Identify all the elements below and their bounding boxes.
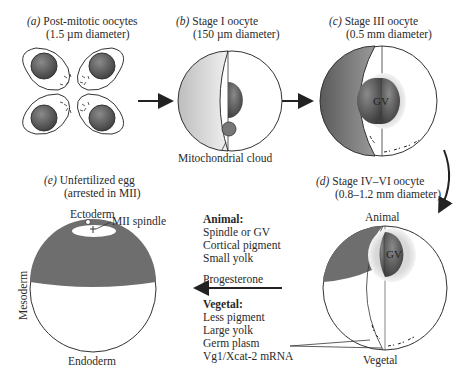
panel-c-gv-label: GV [373,95,389,108]
ectoderm-label: Ectoderm [70,208,115,221]
panel-a-title: (a) Post-mitotic oocytes [27,15,138,28]
mitochondrial-cloud-label: Mitochondrial cloud [178,152,272,165]
panel-c-title: (c) Stage III oocyte [329,15,418,28]
panel-a-cells [23,48,124,134]
panel-e-title: (e) Unfertilized egg [44,174,135,187]
vegetal-item: Large yolk [203,324,253,337]
animal-heading: Animal: [203,213,243,226]
panel-d-oocyte [323,226,447,350]
mesoderm-label: Mesoderm [17,271,30,320]
vegetal-item: Vg1/Xcat-2 mRNA [203,350,293,363]
animal-item: Cortical pigment [203,239,281,252]
panel-d-title: (d) Stage IV–VI oocyte [316,175,424,188]
panel-e-egg [30,219,156,352]
panel-a-size: (1.5 µm diameter) [46,28,130,41]
panel-d-gv-label: GV [386,248,402,261]
endoderm-label: Endoderm [68,355,116,368]
panel-c-size: (0.5 mm diameter) [346,28,432,41]
panel-b-title: (b) Stage I oocyte [176,15,258,28]
vegetal-item: Less pigment [203,311,265,324]
panel-b-size: (150 µm diameter) [193,28,279,41]
panel-b-oocyte [178,51,282,151]
animal-item: Small yolk [203,252,253,265]
mii-spindle-label: MII spindle [112,215,166,228]
vegetal-item: Germ plasm [203,337,260,350]
vegetal-pole-label: Vegetal [363,354,397,367]
panel-d-size: (0.8–1.2 mm diameter) [335,188,441,201]
progesterone-label: Progesterone [203,273,263,286]
vegetal-heading: Vegetal: [203,298,243,311]
panel-e-size: (arrested in MII) [64,187,141,200]
animal-pole-label: Animal [365,211,400,224]
animal-item: Spindle or GV [203,226,270,239]
